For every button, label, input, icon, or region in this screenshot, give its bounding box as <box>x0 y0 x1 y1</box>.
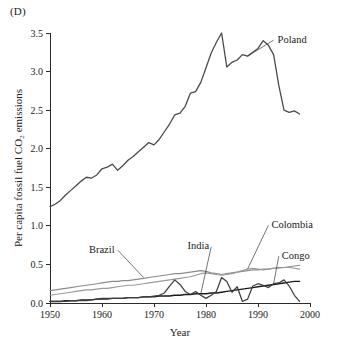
y-axis-ticks: 0.00.51.01.52.02.53.03.5 <box>31 28 51 309</box>
y-tick-label: 1.5 <box>31 182 44 193</box>
series-lines <box>50 33 300 301</box>
series-label-brazil: Brazil <box>89 244 115 255</box>
series-label-congo: Congo <box>282 250 310 261</box>
y-tick-label: 2.0 <box>31 143 44 154</box>
x-tick-label: 1980 <box>196 309 216 320</box>
y-tick-label: 3.5 <box>31 28 44 39</box>
x-tick-label: 1950 <box>40 309 60 320</box>
leader-line-congo <box>274 256 279 284</box>
x-tick-label: 1990 <box>248 309 268 320</box>
series-labels: PolandBrazilColombiaIndiaCongo <box>89 34 313 261</box>
series-leader-lines <box>118 40 279 294</box>
series-label-india: India <box>188 240 210 251</box>
x-axis-title: Year <box>170 326 191 338</box>
y-tick-label: 1.0 <box>31 220 44 231</box>
y-tick-label: 2.5 <box>31 105 44 116</box>
leader-line-brazil <box>118 250 144 278</box>
y-tick-label: 0.5 <box>31 259 44 270</box>
x-tick-label: 1970 <box>144 309 164 320</box>
x-tick-label: 1960 <box>92 309 112 320</box>
y-tick-label: 0.0 <box>31 298 44 309</box>
x-tick-label: 2000 <box>300 309 320 320</box>
series-label-colombia: Colombia <box>271 219 313 230</box>
series-line-colombia <box>50 268 300 296</box>
x-axis-ticks: 195019601970198019902000 <box>40 303 320 320</box>
y-tick-label: 3.0 <box>31 66 44 77</box>
series-label-poland: Poland <box>278 34 308 45</box>
leader-line-colombia <box>248 225 269 269</box>
y-axis-title: Per capita fossil fuel CO₂ emissions <box>12 89 24 247</box>
series-line-poland <box>50 33 300 207</box>
line-chart: 0.00.51.01.52.02.53.03.5 195019601970198… <box>0 0 340 344</box>
figure-panel: (D) 0.00.51.01.52.02.53.03.5 19501960197… <box>0 0 340 344</box>
